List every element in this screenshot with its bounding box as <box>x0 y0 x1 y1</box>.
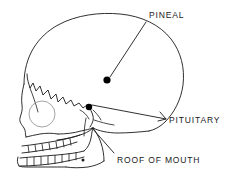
label-pituitary: PITUITARY <box>169 116 220 125</box>
mental-foramen-dot <box>82 159 85 162</box>
skull-diagram: PINEAL PITUITARY ROOF OF MOUTH <box>0 0 228 188</box>
pituitary-marker-dot <box>86 104 92 110</box>
label-roof-of-mouth: ROOF OF MOUTH <box>117 156 200 165</box>
pineal-marker-dot <box>103 76 110 83</box>
label-pineal: PINEAL <box>149 11 184 20</box>
